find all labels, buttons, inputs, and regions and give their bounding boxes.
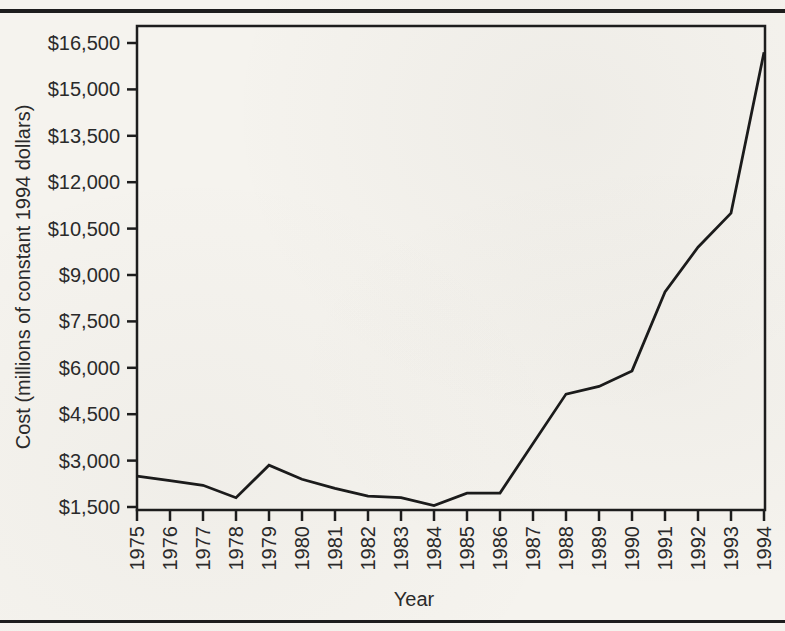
x-tick-label: 1992 [687,526,709,571]
x-tick-label: 1987 [522,526,544,571]
scanned-book-page: $1,500$3,000$4,500$6,000$7,500$9,000$10,… [0,0,785,631]
y-tick-label: $4,500 [59,403,120,425]
x-axis-title: Year [394,588,435,610]
x-tick-label: 1988 [555,526,577,571]
x-tick-label: 1975 [126,526,148,571]
x-tick-label: 1986 [489,526,511,571]
x-tick-label: 1977 [192,526,214,571]
x-tick-label: 1994 [753,526,775,571]
x-tick-label: 1981 [324,526,346,571]
x-tick-label: 1976 [159,526,181,571]
x-tick-label: 1989 [588,526,610,571]
y-tick-label: $10,500 [48,218,120,240]
y-tick-label: $9,000 [59,264,120,286]
y-tick-label: $1,500 [59,496,120,518]
y-tick-label: $16,500 [48,32,120,54]
y-tick-label: $15,000 [48,78,120,100]
x-axis-ticks: 1975197619771978197919801981198219831984… [126,509,775,571]
x-tick-label: 1991 [654,526,676,571]
x-tick-label: 1993 [720,526,742,571]
x-tick-label: 1983 [390,526,412,571]
x-tick-label: 1990 [621,526,643,571]
x-tick-label: 1978 [225,526,247,571]
y-tick-label: $12,000 [48,171,120,193]
y-tick-label: $3,000 [59,450,120,472]
data-line [137,52,764,505]
x-tick-label: 1984 [423,526,445,571]
y-axis-ticks: $1,500$3,000$4,500$6,000$7,500$9,000$10,… [48,32,138,518]
y-tick-label: $6,000 [59,357,120,379]
cost-by-year-line-chart: $1,500$3,000$4,500$6,000$7,500$9,000$10,… [0,0,785,631]
x-tick-label: 1979 [258,526,280,571]
y-tick-label: $13,500 [48,125,120,147]
x-tick-label: 1982 [357,526,379,571]
x-tick-label: 1980 [291,526,313,571]
y-axis-title: Cost (millions of constant 1994 dollars) [12,105,34,450]
y-tick-label: $7,500 [59,310,120,332]
plot-border [137,26,765,510]
x-tick-label: 1985 [456,526,478,571]
